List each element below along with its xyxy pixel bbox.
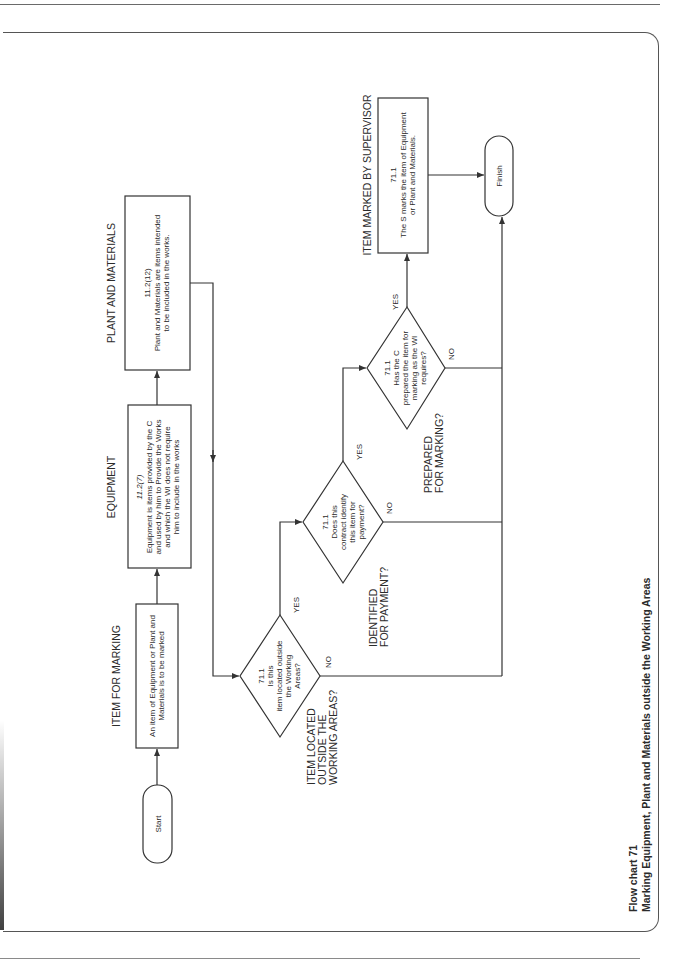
equipment-line-2: and used by him to Provide the Works: [154, 419, 163, 554]
equipment-line-1: Equipment is items provided by the C: [145, 421, 154, 554]
decision2-line-1: Does this: [330, 505, 339, 538]
supervisor-line-1: The S marks the item of Equipment: [399, 112, 408, 238]
equipment-line-4: him to include in the works: [172, 440, 181, 534]
decision3-yes: YES: [391, 294, 400, 310]
item-for-marking-line-1: An item of Equipment or Plant and: [148, 615, 157, 737]
flowchart: Start Finish ITEM FOR MARKING An item of…: [0, 0, 699, 972]
decision1-ref: 71.1: [257, 668, 266, 684]
decision3-line-3: marking as the WI: [410, 336, 419, 400]
plant-materials-line-2: to be included in the works.: [162, 235, 171, 332]
decision2-yes: YES: [355, 444, 364, 460]
decision3-heading-2: FOR MARKING?: [433, 413, 445, 493]
decision1-no: NO: [324, 656, 333, 668]
decision2-line-2: contract identify: [339, 494, 348, 550]
decision2-no: NO: [385, 502, 394, 514]
decision2-line-3: this item for: [348, 501, 357, 543]
decision1-line-2: item located outside: [275, 640, 284, 712]
decision1-line-3: the Working: [284, 655, 293, 698]
decision1-yes: YES: [292, 597, 301, 613]
decision3-line-2: prepared the item for: [401, 331, 410, 406]
decision3-line-1: Has the C: [392, 350, 401, 386]
supervisor-line-2: or Plant and Materials.: [408, 135, 417, 215]
equipment-line-3: and which the WI does not require: [163, 426, 172, 548]
decision2-heading-2: FOR PAYMENT?: [378, 567, 390, 647]
item-for-marking-heading: ITEM FOR MARKING: [110, 625, 122, 727]
plant-materials-heading: PLANT AND MATERIALS: [105, 223, 117, 343]
decision1-heading-3: WORKING AREAS?: [327, 690, 339, 785]
supervisor-ref: 71.1: [389, 167, 398, 183]
equipment-heading: EQUIPMENT: [105, 455, 117, 518]
finish-label: Finish: [495, 165, 504, 186]
decision3-line-4: requires?: [419, 351, 428, 385]
start-label: Start: [154, 815, 163, 833]
plant-materials-line-1: Plant and Materials are items intended: [153, 215, 162, 352]
item-for-marking-line-2: Materials is to be marked: [157, 631, 166, 720]
decision2-line-4: payment?: [357, 504, 366, 540]
decision1-line-1: Is this: [266, 666, 275, 687]
decision3-ref: 71.1: [383, 360, 392, 376]
caption-title: Marking Equipment, Plant and Materials o…: [640, 578, 652, 912]
decision2-ref: 71.1: [321, 514, 330, 530]
decision1-line-4: Areas?: [293, 663, 302, 689]
decision3-no: NO: [447, 348, 456, 360]
caption-number: Flow chart 71: [627, 845, 639, 912]
arrow-plant-to-decision1: [190, 283, 239, 676]
supervisor-heading: ITEM MARKED BY SUPERVISOR: [361, 94, 373, 256]
plant-materials-ref: 11.2(12): [143, 268, 152, 298]
equipment-ref: 11.2(7): [135, 474, 144, 499]
